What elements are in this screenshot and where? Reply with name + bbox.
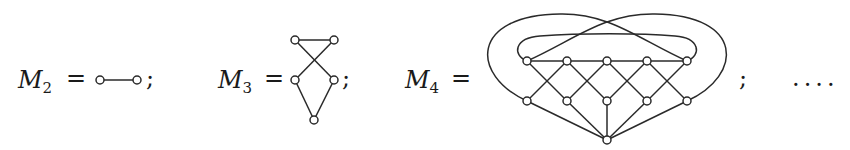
graph-vertex [523,57,531,65]
graph-edge [567,101,607,140]
graph-vertex [330,36,338,44]
graph-vertex [310,116,318,124]
graph-vertex [563,57,571,65]
graph-vertex [291,36,299,44]
graph-vertex [330,76,338,84]
graph-vertex [523,97,531,105]
graph-edge [295,80,314,120]
graph-edge [607,101,687,140]
graph-edge [527,101,607,140]
graph-vertex [683,97,691,105]
graph-canvas [0,0,850,150]
graph-vertex [133,76,141,84]
graph-vertex [603,97,611,105]
graph-vertex [563,97,571,105]
graph-vertex [603,57,611,65]
graph-vertex [683,57,691,65]
graph-vertex [643,57,651,65]
graph-nodes [96,36,691,144]
graph-vertex [96,76,104,84]
graph-edges [100,40,687,140]
m4-outer-loop-right [527,14,726,101]
graph-vertex [603,136,611,144]
graph-edge [314,80,334,120]
graph-vertex [643,97,651,105]
graph-vertex [291,76,299,84]
graph-edge [607,101,647,140]
m4-outer-loop-left [488,14,687,101]
